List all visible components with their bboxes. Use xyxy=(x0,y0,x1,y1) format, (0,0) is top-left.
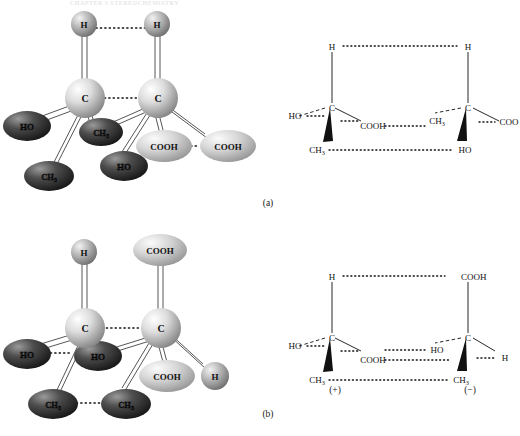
atom-label: C xyxy=(157,323,164,334)
atom-label: COOH xyxy=(153,372,181,382)
wedge-left xyxy=(323,338,333,372)
atom-b-c-left: C xyxy=(65,308,105,348)
atom-label: COOH xyxy=(146,246,174,256)
atom-a-cooh-right: COOH xyxy=(200,130,256,162)
bond-left-plain xyxy=(335,108,361,121)
label-left-dash: HO xyxy=(289,111,302,121)
label-right-dash: HO xyxy=(431,345,444,355)
bond-right-plain xyxy=(473,108,499,121)
atom-label: COOH xyxy=(150,142,178,152)
caption-b: (b) xyxy=(248,409,288,419)
label-left-top: H xyxy=(329,42,336,52)
label-right-plain: COO xyxy=(499,117,519,127)
atom-label: HO xyxy=(117,162,131,172)
label-left-wedge: CH3 xyxy=(309,145,325,156)
label-left-plain: COOH xyxy=(360,355,386,365)
atom-a-h-right: H xyxy=(144,11,170,37)
label-sign-minus: (−) xyxy=(455,385,485,395)
label-right-dash: CH3 xyxy=(429,116,445,127)
label-left-top: H xyxy=(329,272,336,282)
atom-b-h-right: H xyxy=(201,362,229,390)
label-left-dash: HO xyxy=(289,341,302,351)
label-right-top: H xyxy=(465,42,472,52)
wedge-left xyxy=(323,108,333,142)
atom-label: HO xyxy=(91,352,105,362)
panel-a-projection: H H C C HO COOH CH3 COO CH3 HO xyxy=(285,28,520,178)
bond-left-dash xyxy=(299,338,325,346)
atom-label: HO xyxy=(20,122,34,132)
label-left-center: C xyxy=(329,103,335,113)
label-right-center: C xyxy=(465,103,471,113)
atom-b-cooh-mid: COOH xyxy=(139,360,195,392)
label-right-top: COOH xyxy=(461,272,487,282)
atom-b-c-right: C xyxy=(141,308,181,348)
bond-left-dash xyxy=(299,108,325,116)
bond-left-plain xyxy=(335,338,361,351)
atom-a-h-left: H xyxy=(71,11,97,37)
panel-b-3d-model: H COOH HO HO CH3 CH3 COOH H xyxy=(0,228,270,423)
atom-b-h-left: H xyxy=(71,239,97,265)
atom-label: H xyxy=(80,248,87,258)
bond-right-dash xyxy=(435,108,461,113)
caption-a: (a) xyxy=(248,198,288,208)
label-right-center: C xyxy=(465,333,471,343)
bond-right-dash xyxy=(435,338,461,343)
atom-label: C xyxy=(81,93,88,104)
label-sign-plus: (+) xyxy=(320,385,350,395)
atom-a-ch3-left: CH3 xyxy=(24,161,74,191)
bond-right-plain xyxy=(473,338,495,351)
atom-a-ho-mid: HO xyxy=(100,151,148,181)
label-right-plain: H xyxy=(502,353,509,363)
atom-a-ch3-mid: CH3 xyxy=(79,118,123,146)
atom-label: H xyxy=(153,20,160,30)
atom-label: HO xyxy=(20,350,34,360)
label-right-wedge: HO xyxy=(459,145,472,155)
atom-a-c-left: C xyxy=(65,78,105,118)
atom-a-cooh-mid: COOH xyxy=(136,130,192,162)
atom-a-ho-left: HO xyxy=(3,111,51,141)
atom-b-ch3-mid: CH3 xyxy=(101,389,151,419)
atom-label: C xyxy=(81,323,88,334)
figure-stereochemistry: CHAPTER 5 STEREOCHEMISTRY xyxy=(0,0,520,436)
atom-b-ho-left: HO xyxy=(3,339,51,369)
atom-b-ch3-left: CH3 xyxy=(28,389,78,419)
atom-label: COOH xyxy=(214,142,242,152)
panel-a-3d-model: H H HO CH3 CH3 HO COOH COOH xyxy=(0,6,270,201)
atom-b-cooh-top: COOH xyxy=(133,234,187,266)
label-left-plain: COOH xyxy=(360,121,386,131)
label-left-center: C xyxy=(329,333,335,343)
atom-label: C xyxy=(154,93,161,104)
atom-label: H xyxy=(80,20,87,30)
atom-a-c-right: C xyxy=(138,78,178,118)
atom-label: H xyxy=(211,372,218,382)
